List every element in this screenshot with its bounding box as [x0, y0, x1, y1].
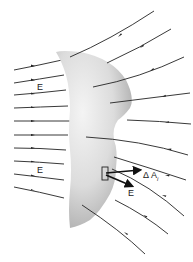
field-arrowheads-right [118, 33, 171, 235]
field-arrowheads-left [31, 65, 35, 191]
area-element-text: Δ A [143, 170, 157, 180]
area-element-subscript: i [157, 176, 158, 182]
diagram-canvas [0, 0, 193, 262]
field-label-lower: E [37, 166, 43, 175]
area-element-label: Δ Ai [143, 171, 158, 182]
gaussian-surface [56, 51, 132, 228]
field-label-upper: E [37, 83, 43, 92]
flux-diagram: E E Δ Ai E [0, 0, 193, 262]
field-vector-label: E [128, 189, 134, 198]
field-lines-left [14, 60, 70, 198]
